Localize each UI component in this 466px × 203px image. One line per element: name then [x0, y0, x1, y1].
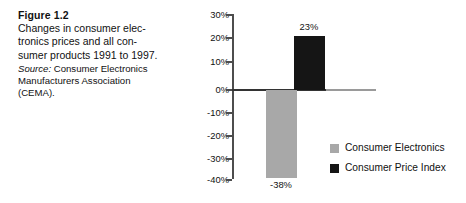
- legend-item-consumer-price-index[interactable]: Consumer Price Index: [330, 158, 446, 178]
- y-axis-tick-label: -40%: [195, 175, 229, 185]
- figure-source: Source: Consumer Electronics Manufacture…: [18, 63, 186, 99]
- legend-item-label: Consumer Price Index: [345, 162, 446, 174]
- y-axis-tick-label: 30%: [195, 10, 229, 20]
- y-axis-tick: [226, 135, 232, 137]
- y-axis-tick: [226, 61, 232, 63]
- figure-description-line: sumer products 1991 to 1997.: [18, 49, 186, 62]
- figure-label: Figure 1.2: [18, 9, 186, 22]
- chart-legend: Consumer Electronics Consumer Price Inde…: [330, 138, 446, 178]
- y-axis-tick-label: -30%: [195, 154, 229, 164]
- legend-item-consumer-electronics[interactable]: Consumer Electronics: [330, 138, 446, 158]
- figure-caption: Figure 1.2 Changes in consumer elec- tro…: [18, 9, 186, 99]
- bar-value-label-consumer-electronics: -38%: [259, 180, 303, 190]
- figure-description-line: Changes in consumer elec-: [18, 22, 186, 35]
- y-axis-tick: [226, 14, 232, 16]
- y-axis-tick-label: -20%: [195, 131, 229, 141]
- bar-chart: 30% 20% 10% 0% -10% -20% -30% -40% -38% …: [193, 0, 466, 203]
- bar-consumer-price-index[interactable]: [294, 36, 325, 90]
- y-axis-labels: 30% 20% 10% 0% -10% -20% -30% -40%: [193, 0, 229, 203]
- y-axis-tick-label: 20%: [195, 33, 229, 43]
- legend-item-label: Consumer Electronics: [345, 142, 445, 154]
- y-axis-tick: [226, 37, 232, 39]
- figure-source-line: (CEMA).: [18, 87, 186, 99]
- y-axis-tick: [226, 112, 232, 114]
- bar-value-label-consumer-price-index: 23%: [287, 22, 331, 32]
- y-axis-tick-label: 0%: [195, 85, 229, 95]
- y-axis-tick: [226, 179, 232, 181]
- legend-swatch-icon: [330, 144, 339, 153]
- figure-source-line: Manufacturers Association: [18, 75, 186, 87]
- bar-consumer-electronics[interactable]: [266, 90, 297, 178]
- page-edge-bottom: [0, 200, 466, 203]
- figure-source-line: Source: Consumer Electronics: [18, 63, 186, 75]
- y-axis-line: [232, 14, 234, 179]
- y-axis-tick-label: -10%: [195, 108, 229, 118]
- figure-source-text: Consumer Electronics: [51, 63, 148, 74]
- figure-page: Figure 1.2 Changes in consumer elec- tro…: [0, 0, 466, 203]
- legend-swatch-icon: [330, 164, 339, 173]
- figure-description-line: tronics prices and all con-: [18, 35, 186, 48]
- figure-description: Changes in consumer elec- tronics prices…: [18, 22, 186, 62]
- y-axis-tick-label: 10%: [195, 57, 229, 67]
- source-label: Source:: [18, 63, 51, 74]
- y-axis-tick: [226, 158, 232, 160]
